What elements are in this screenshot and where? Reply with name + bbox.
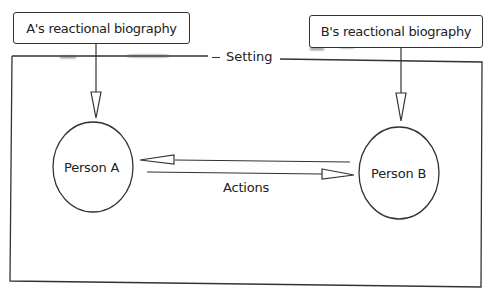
scan-smudge — [128, 55, 168, 57]
person-a-label: Person A — [64, 160, 119, 175]
arrow-b-to-a-head — [140, 155, 174, 164]
box-a-label: A's reactional biography — [26, 21, 177, 36]
scan-smudge — [60, 56, 76, 58]
arrow-a-to-b-head — [322, 169, 354, 179]
setting-dash — [212, 57, 220, 58]
box-a-reactional-biography: A's reactional biography — [13, 12, 190, 44]
arrow-b-to-a-shaft — [175, 160, 350, 162]
arrow-a-to-b-shaft — [147, 172, 322, 174]
arrow-a-head — [91, 92, 101, 118]
box-b-reactional-biography: B's reactional biography — [309, 15, 483, 48]
setting-text: Setting — [226, 49, 273, 64]
box-b-label: B's reactional biography — [321, 24, 472, 39]
arrow-b-head — [396, 93, 406, 121]
person-b-label: Person B — [371, 166, 426, 181]
scan-smudge — [310, 48, 324, 50]
actions-label: Actions — [223, 180, 269, 195]
setting-label: Setting — [208, 49, 277, 64]
